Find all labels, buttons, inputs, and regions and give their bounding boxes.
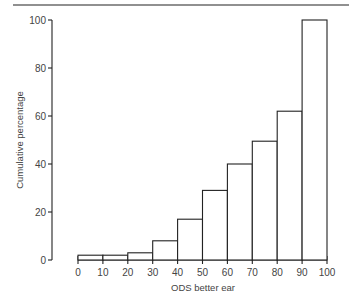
- x-tick-label: 50: [197, 267, 209, 278]
- x-tick-label: 60: [222, 267, 234, 278]
- x-tick-label: 30: [147, 267, 159, 278]
- bars: [78, 20, 327, 260]
- y-tick-label: 0: [40, 255, 46, 266]
- y-tick-label: 20: [35, 207, 47, 218]
- y-tick-label: 80: [35, 63, 47, 74]
- histogram-bar: [103, 255, 128, 260]
- x-tick-label: 100: [319, 267, 336, 278]
- histogram-bar: [153, 241, 178, 260]
- y-tick-label: 60: [35, 111, 47, 122]
- x-tick-label: 0: [75, 267, 81, 278]
- x-tick-label: 70: [247, 267, 259, 278]
- y-tick-label: 100: [29, 15, 46, 26]
- histogram-bar: [252, 141, 277, 260]
- x-tick-label: 20: [122, 267, 134, 278]
- histogram-bar: [78, 255, 103, 260]
- x-tick-label: 10: [97, 267, 109, 278]
- histogram-chart: 020406080100 0102030405060708090100 Cumu…: [0, 0, 349, 305]
- histogram-bar: [227, 164, 252, 260]
- y-axis-title: Cumulative percentage: [14, 91, 25, 189]
- x-tick-label: 90: [297, 267, 309, 278]
- y-axis: 020406080100: [29, 15, 52, 266]
- x-tick-label: 40: [172, 267, 184, 278]
- histogram-bar: [128, 253, 153, 260]
- histogram-bar: [277, 111, 302, 260]
- x-tick-label: 80: [272, 267, 284, 278]
- x-axis-title: ODS better ear: [171, 282, 235, 293]
- y-tick-label: 40: [35, 159, 47, 170]
- histogram-bar: [302, 20, 327, 260]
- histogram-bar: [178, 219, 203, 260]
- histogram-bar: [203, 190, 228, 260]
